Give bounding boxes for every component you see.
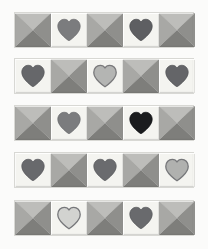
- heart-icon: [128, 110, 154, 136]
- heart-tile: [159, 59, 195, 93]
- pyramid-ridge-highlight: [15, 13, 51, 47]
- heart-tile-face: [15, 59, 51, 93]
- heart-icon: [56, 17, 82, 43]
- heart-tile: [15, 153, 51, 187]
- heart-tile: [159, 153, 195, 187]
- pyramid-ridge-highlight: [87, 201, 123, 235]
- pyramid-ridge-highlight: [51, 153, 87, 187]
- heart-tile-face: [51, 13, 87, 47]
- heart-icon: [164, 63, 190, 89]
- pyramid-ridge-highlight: [123, 59, 159, 93]
- pyramid-ridge-highlight: [159, 106, 195, 140]
- heart-tile: [123, 13, 159, 47]
- pyramid-ridge-highlight: [15, 201, 51, 235]
- heart-tile: [15, 59, 51, 93]
- heart-icon: [56, 110, 82, 136]
- pyramid-tile: [87, 106, 123, 140]
- heart-tile-face: [87, 59, 123, 93]
- tile-strip: [14, 105, 194, 141]
- tile-strip: [14, 58, 194, 94]
- pyramid-ridge-highlight: [51, 59, 87, 93]
- pyramid-tile: [159, 201, 195, 235]
- pyramid-tile: [15, 106, 51, 140]
- heart-tile-face: [87, 153, 123, 187]
- tile-strip: [14, 152, 194, 188]
- heart-tile: [51, 13, 87, 47]
- heart-icon: [92, 157, 118, 183]
- heart-icon: [20, 63, 46, 89]
- heart-tile-face: [15, 153, 51, 187]
- pyramid-ridge-highlight: [123, 153, 159, 187]
- heart-tile: [87, 153, 123, 187]
- tile-strip: [14, 200, 194, 236]
- heart-tile: [51, 201, 87, 235]
- heart-icon: [56, 205, 82, 231]
- heart-icon: [164, 157, 190, 183]
- pyramid-ridge-highlight: [15, 106, 51, 140]
- heart-tile-face: [159, 153, 195, 187]
- heart-tile-face: [51, 201, 87, 235]
- heart-tile: [87, 59, 123, 93]
- pyramid-tile: [15, 201, 51, 235]
- tile-strip-board: [0, 0, 208, 249]
- pyramid-tile: [51, 59, 87, 93]
- heart-tile-face: [123, 201, 159, 235]
- heart-icon: [128, 17, 154, 43]
- pyramid-tile: [51, 153, 87, 187]
- pyramid-ridge-highlight: [87, 13, 123, 47]
- heart-tile-face: [51, 106, 87, 140]
- pyramid-tile: [159, 13, 195, 47]
- heart-tile: [123, 201, 159, 235]
- pyramid-ridge-highlight: [87, 106, 123, 140]
- pyramid-tile: [15, 13, 51, 47]
- heart-tile: [51, 106, 87, 140]
- heart-tile-face: [159, 59, 195, 93]
- heart-tile-face: [123, 106, 159, 140]
- pyramid-tile: [123, 59, 159, 93]
- heart-icon: [128, 205, 154, 231]
- pyramid-ridge-highlight: [159, 13, 195, 47]
- pyramid-tile: [87, 201, 123, 235]
- pyramid-tile: [123, 153, 159, 187]
- pyramid-tile: [159, 106, 195, 140]
- tile-strip: [14, 12, 194, 48]
- heart-icon: [20, 157, 46, 183]
- heart-tile: [123, 106, 159, 140]
- pyramid-tile: [87, 13, 123, 47]
- pyramid-ridge-highlight: [159, 201, 195, 235]
- heart-tile-face: [123, 13, 159, 47]
- heart-icon: [92, 63, 118, 89]
